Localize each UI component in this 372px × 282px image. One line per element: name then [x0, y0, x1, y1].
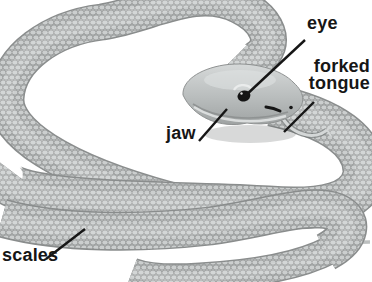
head-sheen: [204, 70, 276, 90]
label-scales: scales: [2, 247, 58, 264]
snake-anatomy-diagram: eye forked tongue jaw scales: [0, 0, 372, 282]
label-forked-tongue: forked tongue: [309, 58, 370, 92]
head-shadow: [204, 125, 296, 143]
label-jaw: jaw: [166, 125, 196, 142]
label-eye: eye: [307, 15, 338, 32]
